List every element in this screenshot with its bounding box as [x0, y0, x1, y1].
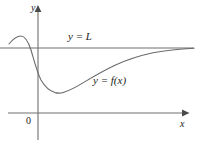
asymptote-label: y = L	[68, 31, 92, 42]
origin-label: 0	[26, 116, 31, 126]
x-axis-arrow-icon	[182, 109, 190, 116]
limit-graph-figure: y x 0 y = L y = f(x)	[0, 0, 197, 146]
y-axis-label: y	[31, 3, 35, 13]
y-axis-arrow-icon	[35, 5, 42, 12]
function-label: y = f(x)	[93, 75, 126, 86]
x-axis-label: x	[180, 119, 184, 129]
